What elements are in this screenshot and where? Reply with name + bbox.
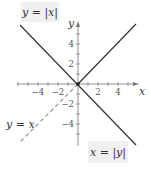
label-rhs: |y|: [112, 146, 126, 159]
x-tick-label: 4: [115, 87, 120, 97]
label-rhs: |x|: [44, 6, 58, 19]
origin-point: [76, 82, 80, 86]
label-eq: =: [96, 146, 112, 159]
y-tick-label: −2: [61, 99, 74, 109]
y-tick-label: 2: [69, 59, 74, 69]
label-y-equals-abs-x: y = |x|: [21, 2, 59, 22]
graph-canvas: −4 −2 2 4 x 4 2 −2 −4 y: [0, 0, 151, 170]
dashed-line-y-equals-x: [20, 84, 78, 142]
y-axis: 4 2 −2 −4 y: [61, 17, 80, 146]
y-tick-label: 4: [69, 39, 74, 49]
x-tick-label: −2: [52, 87, 65, 97]
x-tick-label: −4: [32, 87, 45, 97]
label-rhs: x: [28, 118, 34, 131]
label-eq: =: [12, 118, 28, 131]
y-axis-name: y: [67, 17, 75, 30]
line-upper-right: [78, 24, 136, 84]
x-axis-name: x: [139, 85, 146, 98]
y-tick-label: −4: [61, 119, 74, 129]
label-eq: =: [28, 6, 44, 19]
x-axis: −4 −2 2 4 x: [17, 82, 146, 98]
y-axis-arrow-icon: [76, 21, 80, 27]
label-x-equals-abs-y: x = |y|: [88, 141, 128, 163]
label-y-equals-x: y = x: [6, 118, 35, 131]
x-tick-label: 2: [95, 87, 100, 97]
